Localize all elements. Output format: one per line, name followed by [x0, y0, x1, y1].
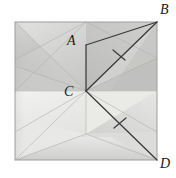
vertex-label-B: B	[160, 3, 169, 17]
paper-inner-left-shade	[15, 22, 25, 160]
figure-canvas	[0, 0, 176, 178]
vertex-label-A: A	[67, 34, 76, 48]
vertex-label-C: C	[64, 85, 73, 99]
origami-geometry-figure: A B C D	[0, 0, 176, 178]
vertex-label-D: D	[160, 157, 170, 171]
